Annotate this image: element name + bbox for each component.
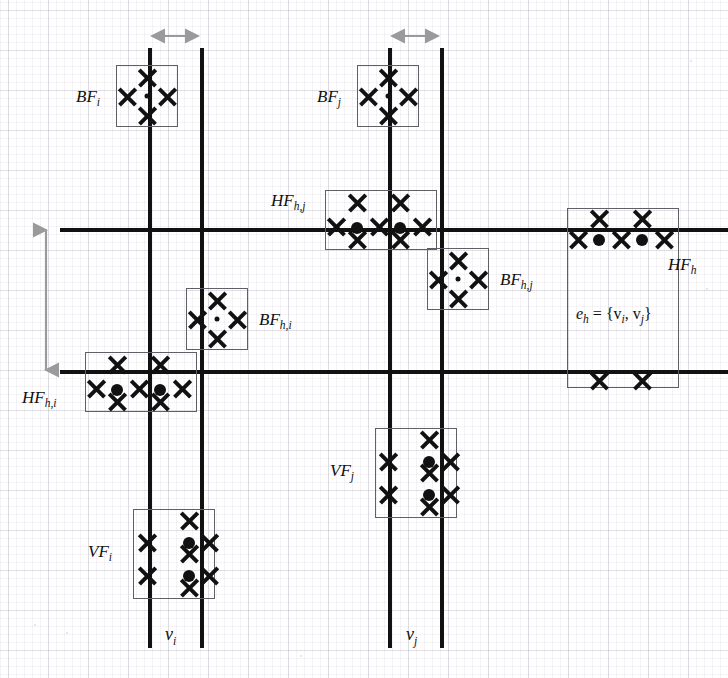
hf-h-label: HFh <box>668 256 696 277</box>
x-mark <box>186 309 208 331</box>
bf-i-label-main: BF <box>76 87 97 106</box>
vf-j-label-sub: j <box>351 470 354 482</box>
x-mark <box>439 484 461 506</box>
bf-hi-label: BFh,i <box>259 311 292 332</box>
x-mark <box>85 378 107 400</box>
hf-hj-label-main: HF <box>271 191 294 210</box>
hf-hi-label-sub: h,i <box>45 397 57 409</box>
vertex-dot <box>183 537 195 549</box>
x-mark <box>377 484 399 506</box>
edge-label-rest3: } <box>644 305 652 322</box>
x-mark <box>136 565 158 587</box>
x-mark <box>136 105 158 127</box>
vertex-dot <box>636 234 648 246</box>
x-mark <box>389 192 411 214</box>
x-mark <box>567 229 589 251</box>
bf-j-label: BFj <box>317 88 341 109</box>
vertex-label-vi-sub: i <box>173 635 176 647</box>
center-dot <box>386 94 391 99</box>
hf-h-label-sub: h <box>691 264 697 276</box>
x-mark <box>346 192 368 214</box>
x-mark <box>588 208 610 230</box>
vertex-label-vj-sub: j <box>414 635 417 647</box>
x-mark <box>631 370 653 392</box>
vertex-dot <box>111 384 123 396</box>
x-mark <box>377 67 399 89</box>
x-mark <box>397 86 419 108</box>
x-mark <box>447 250 469 272</box>
vf-i-label-sub: i <box>109 551 112 563</box>
hf-h-label-main: HF <box>668 255 691 274</box>
vertical-line-vj-right <box>440 48 444 648</box>
x-mark <box>106 354 128 376</box>
bf-hj-label-main: BF <box>500 270 521 289</box>
x-mark <box>206 328 228 350</box>
edge-label-rest1: = {v <box>589 305 622 322</box>
vf-i-label: VFi <box>88 543 112 564</box>
x-mark <box>178 510 200 532</box>
vertical-gap-arrow <box>38 224 54 376</box>
bf-j-label-sub: j <box>338 96 341 108</box>
center-dot <box>215 317 220 322</box>
bf-hj-label-sub: h,j <box>521 279 533 291</box>
center-dot <box>456 277 461 282</box>
scan-speck <box>66 632 68 634</box>
vertex-label-vi-main: v <box>165 624 173 644</box>
x-mark <box>136 67 158 89</box>
x-mark <box>198 532 220 554</box>
bf-hi-label-sub: h,i <box>280 319 292 331</box>
hf-hj-label: HFh,j <box>271 192 306 213</box>
vertex-dot <box>154 384 166 396</box>
bf-i-label-sub: i <box>97 96 100 108</box>
vertex-dot <box>423 456 435 468</box>
vertex-label-vj: vj <box>406 625 417 647</box>
vertex-label-vi: vi <box>165 625 176 647</box>
x-mark <box>631 208 653 230</box>
hf-hi-label-main: HF <box>22 388 45 407</box>
x-mark <box>447 288 469 310</box>
vf-i-label-main: VF <box>88 542 109 561</box>
bf-j-label-main: BF <box>317 87 338 106</box>
horizontal-gap-arrow-right <box>388 28 446 44</box>
x-mark <box>325 216 347 238</box>
horizontal-gap-arrow-left <box>148 28 206 44</box>
hf-hj-label-sub: h,j <box>294 200 306 212</box>
x-mark <box>149 354 171 376</box>
scan-speck <box>300 655 302 657</box>
vertex-dot <box>394 222 406 234</box>
scan-speck <box>34 624 36 626</box>
x-mark <box>226 309 248 331</box>
x-mark <box>427 269 449 291</box>
x-mark <box>116 86 138 108</box>
scan-speck <box>706 288 708 290</box>
x-mark <box>357 86 379 108</box>
x-mark <box>588 370 610 392</box>
x-mark <box>610 229 632 251</box>
x-mark <box>136 532 158 554</box>
x-mark <box>418 429 440 451</box>
x-mark <box>206 290 228 312</box>
bf-i-label: BFi <box>76 88 100 109</box>
bf-hi-label-main: BF <box>259 310 280 329</box>
edge-set-label: eh = {vi, vj} <box>576 306 652 326</box>
vertical-line-vj-left <box>388 48 392 648</box>
vertex-dot <box>351 222 363 234</box>
x-mark <box>653 229 675 251</box>
figure-canvas: BFi BFj HFh,j BFh,j HFh eh = {vi, vj} <box>0 0 728 678</box>
vertex-dot <box>183 570 195 582</box>
vf-j-label-main: VF <box>330 461 351 480</box>
x-mark <box>377 451 399 473</box>
x-mark <box>439 451 461 473</box>
x-mark <box>171 378 193 400</box>
vf-j-label: VFj <box>330 462 354 483</box>
x-mark <box>128 378 150 400</box>
vertex-label-vj-main: v <box>406 624 414 644</box>
x-mark <box>198 565 220 587</box>
x-mark <box>467 269 489 291</box>
bf-hj-label: BFh,j <box>500 271 533 292</box>
x-mark <box>411 216 433 238</box>
x-mark <box>368 216 390 238</box>
hf-hi-label: HFh,i <box>22 389 57 410</box>
x-mark <box>377 105 399 127</box>
vertex-dot <box>593 234 605 246</box>
